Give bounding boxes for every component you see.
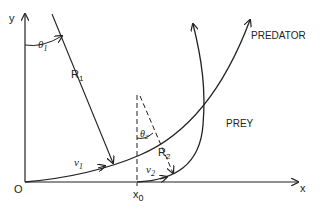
x0-label: x0 xyxy=(133,188,144,203)
predator-label: PREDATOR xyxy=(251,30,306,41)
prey-curve xyxy=(137,24,204,182)
theta1-label: θ1 xyxy=(38,38,47,53)
r2-label: R2 xyxy=(158,146,171,161)
v1-label: v1 xyxy=(74,156,83,171)
x-axis-label: x xyxy=(300,182,306,194)
prey-label: PREY xyxy=(226,118,254,129)
y-axis-label: y xyxy=(9,12,15,24)
theta2-label: θ2 xyxy=(140,128,149,141)
pursuit-diagram: y x O x0 θ1 R1 PREDATOR v1 PREY v2 θ2 R2 xyxy=(0,0,324,211)
origin-label: O xyxy=(14,183,23,195)
predator-curve xyxy=(25,20,250,182)
r1-label: R1 xyxy=(71,68,84,83)
v2-label: v2 xyxy=(146,163,155,178)
